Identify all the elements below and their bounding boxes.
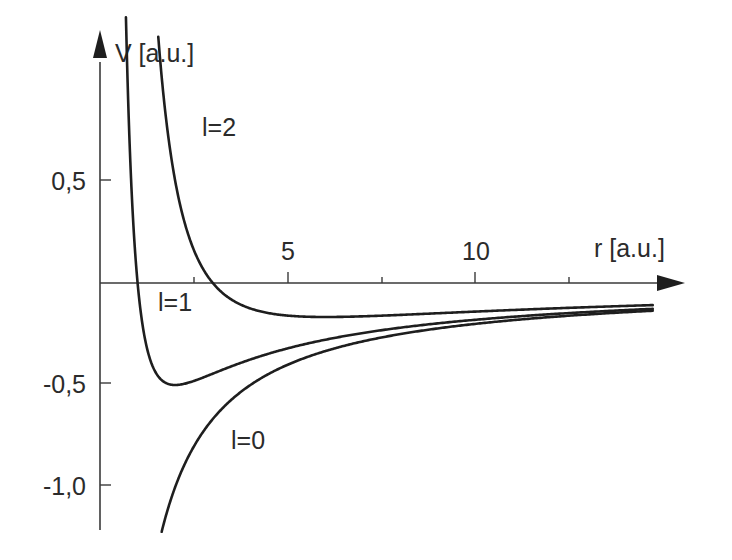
x-axis-arrow-icon — [657, 275, 685, 291]
axes — [93, 30, 685, 530]
curve-label-l0: l=0 — [231, 426, 265, 454]
curve-l0 — [162, 311, 653, 532]
y-axis-arrow-icon — [93, 30, 107, 58]
curve-label-l2: l=2 — [202, 113, 236, 141]
x-tick-label-5: 5 — [281, 237, 295, 265]
curve-l2 — [158, 37, 652, 317]
y-tick-label-minus-0.5: -0,5 — [43, 370, 86, 398]
curve-label-l1: l=1 — [158, 288, 192, 316]
y-tick-label-minus-1.0: -1,0 — [43, 472, 86, 500]
y-ticks — [100, 180, 111, 485]
curve-l1 — [126, 17, 653, 385]
effective-potential-chart: V [a.u.] r [a.u.] 5 10 0,5 -0,5 -1,0 l=2… — [0, 0, 732, 560]
x-ticks — [194, 272, 569, 283]
y-tick-label-0.5: 0,5 — [51, 167, 86, 195]
x-axis-label: r [a.u.] — [594, 234, 665, 262]
x-tick-label-10: 10 — [462, 237, 490, 265]
curves — [126, 17, 653, 531]
